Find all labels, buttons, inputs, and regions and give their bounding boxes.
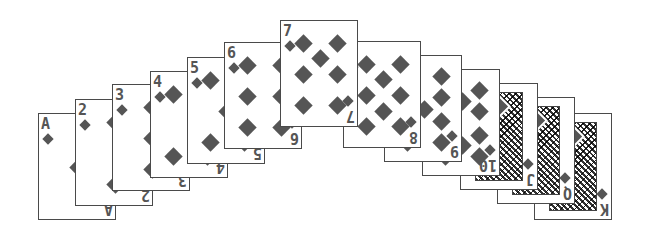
- diamond-icon: [374, 102, 392, 120]
- diamond-icon: [164, 147, 182, 165]
- diamond-icon: [357, 86, 375, 104]
- rank-label: A: [41, 117, 50, 132]
- diamond-icon: [522, 158, 533, 169]
- rank-label: 4: [153, 75, 162, 90]
- diamond-icon: [432, 112, 450, 130]
- diamond-icon: [238, 56, 256, 74]
- diamond-icon: [391, 86, 409, 104]
- rank-label-inverted: 8: [409, 129, 418, 144]
- diamond-icon: [470, 126, 488, 144]
- diamond-icon: [432, 67, 450, 85]
- diamond-icon: [357, 55, 375, 73]
- diamond-icon: [328, 65, 346, 83]
- diamond-icon: [432, 88, 450, 106]
- diamond-icon: [238, 118, 256, 136]
- rank-label-inverted: K: [600, 201, 609, 216]
- diamond-icon: [470, 102, 488, 120]
- diamond-icon: [42, 133, 53, 144]
- diamond-icon: [79, 119, 90, 130]
- playing-card-7[interactable]: 77: [280, 20, 358, 127]
- diamond-icon: [357, 117, 375, 135]
- rank-label-inverted: J: [526, 171, 535, 186]
- diamond-icon: [311, 49, 329, 67]
- diamond-icon: [374, 70, 392, 88]
- rank-label: 2: [78, 103, 87, 118]
- rank-label-inverted: 9: [450, 143, 459, 158]
- diamond-icon: [294, 34, 312, 52]
- diamond-icon: [116, 104, 127, 115]
- diamond-icon: [470, 81, 488, 99]
- diamond-icon: [596, 188, 607, 199]
- rank-label-inverted: 6: [290, 130, 299, 145]
- rank-label: 5: [190, 61, 199, 76]
- diamond-icon: [328, 34, 346, 52]
- rank-label: 7: [283, 24, 292, 39]
- rank-label: 3: [115, 88, 124, 103]
- diamond-icon: [559, 172, 570, 183]
- diamond-icon: [238, 87, 256, 105]
- diamond-icon: [164, 85, 182, 103]
- diamond-icon: [294, 96, 312, 114]
- rank-label-inverted: 7: [346, 108, 355, 123]
- diamond-icon: [201, 71, 219, 89]
- diamond-icon: [391, 55, 409, 73]
- rank-label: 6: [227, 46, 236, 61]
- diamond-icon: [201, 133, 219, 151]
- rank-label-inverted: Q: [563, 185, 572, 200]
- diamond-icon: [294, 65, 312, 83]
